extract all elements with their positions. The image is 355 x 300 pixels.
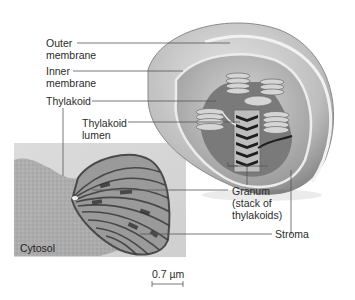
label-thylakoid-lumen: Thylakoid lumen (82, 117, 127, 141)
central-granum (234, 110, 260, 172)
label-stroma: Stroma (275, 228, 309, 240)
label-cytosol: Cytosol (20, 242, 55, 254)
label-thylakoid: Thylakoid (46, 95, 91, 107)
label-inner-membrane: Inner membrane (46, 65, 96, 89)
label-granum: Granum (stack of thylakoids) (232, 185, 282, 221)
chloroplast-diagram: Outer membrane Inner membrane Thylakoid … (0, 0, 355, 300)
label-outer-membrane: Outer membrane (46, 37, 96, 61)
scale-bar-label: 0.7 µm (152, 268, 184, 280)
micrograph-panel (14, 143, 186, 258)
